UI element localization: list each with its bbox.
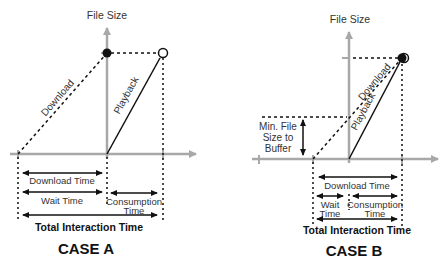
case-a-download-label: Download bbox=[39, 77, 76, 118]
case-b-min-buffer-label-1: Min. File bbox=[259, 121, 297, 132]
diagram-canvas: File Size Download Playback Download Tim… bbox=[0, 0, 447, 264]
case-a-diagram: File Size Download Playback Download Tim… bbox=[10, 9, 196, 257]
case-b-diagram: File Size Min. File Size to Buffer Downl… bbox=[252, 13, 438, 259]
case-a-total-label: Total Interaction Time bbox=[35, 221, 143, 233]
case-b-title: CASE B bbox=[326, 242, 383, 259]
case-a-playback-complete-dot bbox=[159, 49, 168, 58]
case-a-playback-label: Playback bbox=[111, 74, 141, 116]
case-a-y-axis-label: File Size bbox=[87, 9, 127, 21]
case-a-download-line bbox=[18, 53, 107, 154]
case-b-download-time-label: Download Time bbox=[324, 180, 389, 191]
case-a-title: CASE A bbox=[58, 240, 114, 257]
case-a-download-time-label: Download Time bbox=[29, 175, 94, 186]
case-b-min-buffer-label-2: Size to bbox=[263, 132, 294, 143]
case-b-consumption-label-2: Time bbox=[365, 208, 386, 219]
case-b-wait-time-label-2: Time bbox=[320, 208, 341, 219]
case-b-total-label: Total Interaction Time bbox=[303, 224, 411, 236]
case-a-wait-time-label: Wait Time bbox=[41, 195, 83, 206]
case-b-download-complete-dot bbox=[398, 54, 407, 63]
case-b-y-axis-label: File Size bbox=[330, 13, 370, 25]
case-a-download-complete-dot bbox=[103, 49, 112, 58]
case-b-min-buffer-label-3: Buffer bbox=[265, 143, 292, 154]
